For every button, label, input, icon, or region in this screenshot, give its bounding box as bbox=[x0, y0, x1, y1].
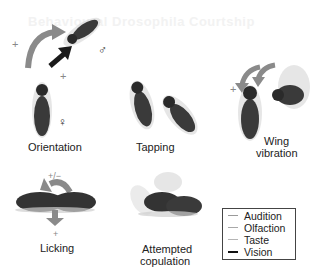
legend-label: Audition bbox=[244, 210, 282, 222]
legend-item-audition: Audition bbox=[228, 210, 295, 221]
label-copulation: copulation bbox=[140, 255, 190, 267]
panel-wing-vibration: + Wing vibration bbox=[220, 55, 324, 165]
plus-mark: + bbox=[12, 38, 18, 50]
panel-tapping: Tapping bbox=[120, 80, 220, 155]
tapping-illustration bbox=[120, 80, 220, 150]
label-orientation: Orientation bbox=[28, 141, 82, 153]
plus-mark: + bbox=[53, 228, 58, 240]
legend-item-olfaction: Olfaction bbox=[228, 222, 295, 233]
attempted-copulation-illustration bbox=[120, 170, 220, 240]
panel-attempted-copulation: Attempted copulation bbox=[120, 170, 220, 265]
legend-label: Olfaction bbox=[244, 222, 285, 234]
legend-swatch bbox=[228, 251, 238, 253]
legend-label: Vision bbox=[244, 246, 272, 258]
panel-orientation: + + ♂ ♀ Orientation bbox=[0, 0, 120, 150]
legend-item-taste: Taste bbox=[228, 234, 295, 245]
legend-swatch bbox=[228, 227, 238, 228]
label-licking: Licking bbox=[40, 242, 74, 254]
legend-swatch bbox=[228, 215, 238, 216]
male-symbol: ♂ bbox=[98, 44, 107, 56]
legend-swatch bbox=[228, 239, 238, 240]
legend: Audition Olfaction Taste Vision bbox=[222, 208, 296, 260]
female-symbol: ♀ bbox=[58, 116, 67, 128]
plus-mark: + bbox=[60, 70, 66, 82]
panel-licking: +/− + Licking bbox=[0, 170, 110, 260]
plus-mark: + bbox=[230, 83, 236, 95]
label-tapping: Tapping bbox=[136, 141, 175, 153]
label-vibration: vibration bbox=[256, 147, 298, 159]
label-attempted: Attempted bbox=[142, 243, 192, 255]
plus-minus-mark: +/− bbox=[48, 170, 61, 182]
label-wing: Wing bbox=[264, 135, 289, 147]
legend-item-vision: Vision bbox=[228, 246, 295, 257]
legend-label: Taste bbox=[244, 234, 269, 246]
